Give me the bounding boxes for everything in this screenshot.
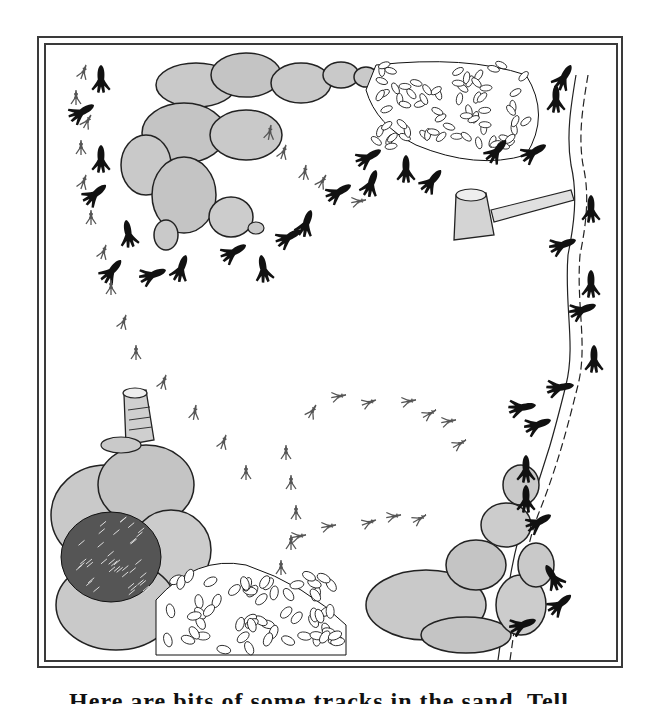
small-track xyxy=(421,406,439,422)
large-track xyxy=(545,376,576,400)
large-track xyxy=(396,155,415,183)
small-track xyxy=(286,475,296,490)
large-track xyxy=(546,231,579,259)
large-track xyxy=(581,195,600,223)
small-track xyxy=(400,395,417,407)
large-track xyxy=(217,237,251,268)
small-track xyxy=(276,560,286,575)
large-track xyxy=(352,142,386,173)
small-track xyxy=(350,195,367,207)
small-track xyxy=(116,313,131,331)
small-track xyxy=(330,390,347,402)
caption: Here are bits of some tracks in the sand… xyxy=(0,688,659,704)
tree-stump-left xyxy=(123,388,154,445)
large-track xyxy=(136,261,169,289)
large-track xyxy=(546,85,565,113)
bush-top xyxy=(366,60,539,161)
small-track xyxy=(156,373,171,391)
small-track xyxy=(314,173,330,191)
illustration-frame xyxy=(44,43,618,662)
large-track xyxy=(91,145,110,173)
small-track xyxy=(360,515,378,530)
small-track xyxy=(96,243,111,261)
small-track xyxy=(131,345,141,360)
rock-pile-top xyxy=(121,53,378,250)
large-track xyxy=(543,588,577,621)
small-track xyxy=(298,164,310,181)
small-track xyxy=(188,404,200,421)
leaf xyxy=(289,580,304,590)
large-track xyxy=(117,218,141,249)
small-track xyxy=(86,210,96,225)
leaf xyxy=(326,604,334,618)
small-track xyxy=(320,520,337,532)
large-track xyxy=(252,253,276,284)
small-track xyxy=(304,403,320,421)
large-track xyxy=(65,97,99,128)
fallen-log xyxy=(491,190,574,222)
large-track xyxy=(581,270,600,298)
illustration xyxy=(46,45,616,660)
large-track xyxy=(566,296,599,324)
small-track xyxy=(106,280,116,295)
small-track xyxy=(385,510,402,522)
leaf xyxy=(460,113,472,119)
large-track xyxy=(416,164,449,198)
small-track xyxy=(291,505,301,520)
large-track xyxy=(357,167,385,200)
large-track xyxy=(521,411,554,439)
leaf xyxy=(370,135,383,147)
bush-light-bottom xyxy=(156,563,346,656)
large-track xyxy=(91,65,110,93)
small-track xyxy=(290,530,307,542)
small-track xyxy=(216,433,231,451)
small-track xyxy=(76,173,91,191)
small-track xyxy=(360,395,378,410)
small-track xyxy=(76,63,91,81)
tree-stump-center xyxy=(454,189,494,240)
bush-dark-fern xyxy=(61,512,161,602)
small-track xyxy=(76,140,86,155)
small-track xyxy=(411,511,429,527)
large-track xyxy=(507,396,538,420)
large-track xyxy=(167,252,195,285)
small-track xyxy=(241,465,251,480)
small-track xyxy=(451,436,469,452)
small-track xyxy=(281,445,291,460)
small-track xyxy=(440,415,457,427)
large-track xyxy=(584,345,603,373)
large-track xyxy=(322,177,356,208)
small-track xyxy=(71,90,81,105)
